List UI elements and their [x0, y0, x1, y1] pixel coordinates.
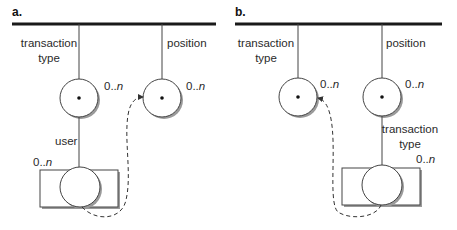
node-label: transaction [382, 123, 438, 135]
node-label: transaction [238, 37, 294, 49]
node-label: type [399, 138, 421, 150]
node-label: position [167, 37, 207, 49]
cardinality-label: 0..n [405, 78, 424, 90]
node-user: user 0..n [33, 117, 120, 209]
panel-b-label: b. [235, 5, 246, 19]
center-dot-icon [77, 96, 81, 100]
cardinality-label: 0..n [320, 78, 339, 90]
node-transaction-type-nested: transaction type 0..n [342, 116, 438, 207]
diagram-canvas: a. transaction type 0..n position 0..n u… [0, 0, 457, 230]
cardinality-label: 0..n [33, 156, 52, 168]
node-position: position 0..n [143, 24, 207, 119]
cardinality-label: 0..n [186, 80, 205, 92]
node-label: user [55, 135, 78, 147]
node-transaction-type: transaction type 0..n [238, 24, 339, 118]
panel-a-label: a. [12, 5, 22, 19]
node-label: type [38, 52, 60, 64]
panel-a: a. transaction type 0..n position 0..n u… [12, 5, 216, 217]
node-circle [60, 167, 100, 207]
node-transaction-type: transaction type 0..n [21, 24, 123, 119]
cardinality-label: 0..n [104, 80, 123, 92]
node-label: type [255, 52, 277, 64]
node-circle [362, 165, 402, 205]
panel-b: b. transaction type 0..n position 0..n t… [235, 5, 442, 217]
node-label: transaction [21, 37, 77, 49]
node-position: position 0..n [363, 24, 426, 118]
center-dot-icon [160, 96, 164, 100]
center-dot-icon [296, 95, 300, 99]
center-dot-icon [380, 95, 384, 99]
node-label: position [386, 37, 426, 49]
cardinality-label: 0..n [416, 153, 435, 165]
